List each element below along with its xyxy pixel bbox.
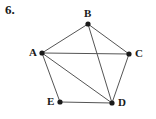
vertex-label-b: B [84, 8, 91, 19]
graph-vertex-b [85, 21, 90, 26]
graph-drawing [0, 0, 156, 119]
vertex-label-e: E [47, 96, 54, 107]
graph-edge-a-b [42, 24, 88, 53]
vertex-label-c: C [135, 48, 143, 59]
graph-vertex-c [126, 51, 131, 56]
graph-vertex-d [109, 100, 114, 105]
graph-edge-b-c [88, 24, 129, 54]
vertex-label-d: D [118, 97, 126, 108]
graph-vertex-a [39, 50, 44, 55]
graph-edge-a-c [42, 53, 129, 54]
graph-edge-b-d [88, 24, 112, 103]
graph-edge-d-e [60, 102, 112, 103]
graph-vertex-e [57, 99, 62, 104]
vertex-label-a: A [29, 47, 37, 58]
graph-figure: 6. ABCDE [0, 0, 156, 119]
graph-edges [42, 24, 129, 103]
graph-vertices [39, 21, 131, 105]
